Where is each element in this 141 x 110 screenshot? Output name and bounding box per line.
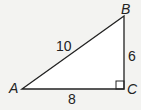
side-bc-label: 6: [128, 48, 136, 64]
side-ab-label: 10: [56, 38, 72, 54]
vertex-a-label: A: [8, 80, 18, 96]
side-ac-label: 8: [68, 91, 76, 107]
triangle-diagram: A B C 10 6 8: [0, 0, 141, 110]
triangle-abc: [22, 16, 124, 89]
vertex-b-label: B: [121, 1, 130, 17]
vertex-c-label: C: [127, 81, 138, 97]
